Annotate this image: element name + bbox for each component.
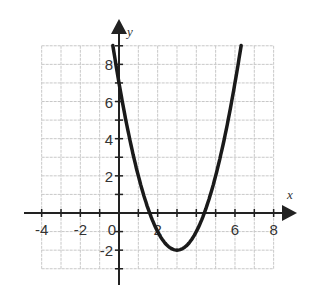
y-tick-label: -2	[100, 242, 113, 259]
x-axis-arrow-icon	[282, 205, 297, 221]
x-tick-label: 0	[108, 221, 116, 238]
y-tick-label: 2	[105, 168, 113, 185]
y-axis-label: y	[125, 24, 133, 39]
axes	[24, 19, 297, 285]
y-tick-label: 4	[105, 131, 113, 148]
x-tick-label: -2	[74, 221, 87, 238]
x-tick-label: 8	[269, 221, 277, 238]
x-tick-label: 6	[231, 221, 239, 238]
y-tick-label: 6	[105, 94, 113, 111]
x-tick-label: -4	[35, 221, 48, 238]
x-axis-label: x	[286, 187, 293, 202]
parabola-chart: -4-202688642-2 x y	[0, 0, 311, 295]
y-tick-label: 8	[105, 56, 113, 73]
y-axis-arrow-icon	[111, 19, 127, 34]
